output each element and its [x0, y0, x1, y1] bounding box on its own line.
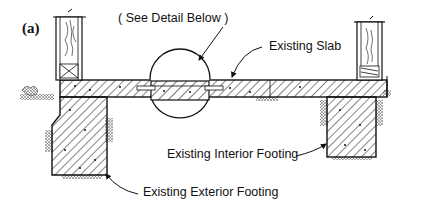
interior-footing: [327, 97, 376, 157]
diagram-canvas: (a) ( See Detail Below ) Existing Slab E…: [0, 0, 430, 212]
existing-slab: [60, 80, 387, 97]
section-drawing: [0, 0, 430, 212]
figure-letter: (a): [22, 21, 40, 36]
exterior-footing: [52, 97, 107, 175]
exterior-footing-label: Existing Exterior Footing: [143, 186, 278, 199]
interior-footing-label: Existing Interior Footing: [167, 148, 298, 161]
interior-wall: [354, 16, 385, 80]
exterior-wall: [53, 9, 86, 80]
slab-label: Existing Slab: [269, 40, 341, 53]
detail-callout-label: ( See Detail Below ): [118, 12, 228, 25]
